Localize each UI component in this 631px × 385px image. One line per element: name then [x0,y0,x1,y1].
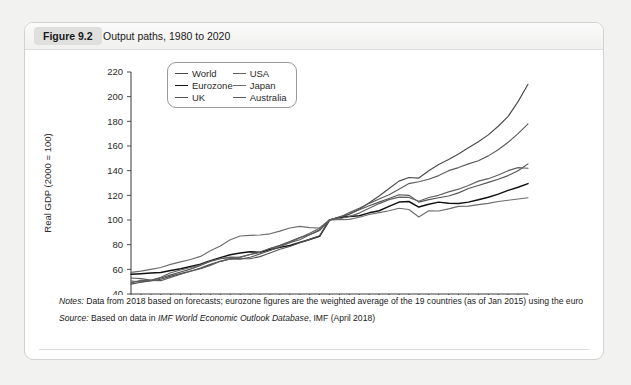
legend-swatch-japan [233,79,250,91]
y-axis-ticks: 406080100120140160180200220 [107,66,131,295]
series-line-japan [131,198,528,273]
notes-text: Data from 2018 based on forecasts; euroz… [84,296,583,306]
legend-label-world: World [192,67,233,79]
legend-row: UKAustralia [175,91,287,103]
notes-label: Notes: [59,296,84,306]
figure-title: Output paths, 1980 to 2020 [103,27,230,45]
legend-swatch-australia [233,91,250,103]
y-tick-label: 140 [107,165,123,176]
source-italic-title: IMF World Economic Outlook Database [158,313,309,323]
y-tick-label: 180 [107,116,123,127]
chart-legend: WorldUSAEurozoneJapanUKAustralia [167,62,297,108]
legend-label-japan: Japan [250,79,287,91]
legend-swatch-world [175,67,192,79]
y-tick-label: 120 [107,190,123,201]
legend-swatch-eurozone [175,79,192,91]
legend-swatch-usa [233,67,250,79]
line-chart: 406080100120140160180200220 198019851990… [25,50,604,295]
legend-label-uk: UK [192,91,233,103]
source-suffix: , IMF (April 2018) [309,313,375,323]
source-label: Source: [59,313,89,323]
legend-row: EurozoneJapan [175,79,287,91]
legend-label-australia: Australia [250,91,287,103]
figure-number-badge: Figure 9.2 [34,27,102,45]
y-tick-label: 60 [112,264,123,275]
y-tick-label: 40 [112,288,123,295]
y-tick-label: 100 [107,214,123,225]
legend-row: WorldUSA [175,67,287,79]
series-line-eurozone [131,184,528,275]
legend-label-eurozone: Eurozone [192,79,233,91]
chart-plot-area: 406080100120140160180200220 198019851990… [25,50,603,295]
series-line-usa [131,168,528,281]
legend-swatch-uk [175,91,192,103]
y-tick-label: 220 [107,66,123,77]
y-tick-label: 80 [112,239,123,250]
figure-card: Figure 9.2 Output paths, 1980 to 2020 40… [24,22,604,360]
figure-header: Figure 9.2 Output paths, 1980 to 2020 [25,23,603,50]
data-series-group [131,84,528,284]
source-line: Source: Based on data in IMF World Econo… [59,312,587,324]
footer-divider [39,349,589,350]
notes-line: Notes: Data from 2018 based on forecasts… [59,295,587,307]
y-tick-label: 200 [107,91,123,102]
legend-table: WorldUSAEurozoneJapanUKAustralia [175,67,287,103]
series-line-uk [131,164,528,282]
y-tick-label: 160 [107,140,123,151]
legend-label-usa: USA [250,67,287,79]
series-line-world [131,84,528,284]
figure-notes: Notes: Data from 2018 based on forecasts… [25,295,603,330]
source-prefix: Based on data in [89,313,158,323]
y-axis-label: Real GDP (2000 = 100) [42,133,53,232]
